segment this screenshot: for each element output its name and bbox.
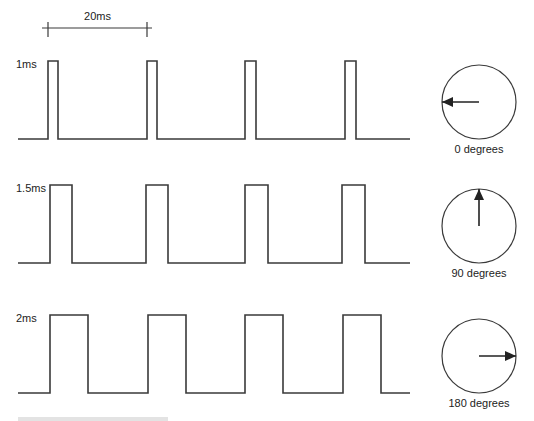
- diagram-svg: 20ms 1ms 0 degrees 1.5ms 90 degrees: [0, 0, 534, 421]
- servo-dial-0-degrees: [442, 65, 516, 139]
- figure-caption-cutoff: [18, 417, 168, 421]
- angle-label: 0 degrees: [455, 143, 504, 155]
- pwm-row-1ms: 1ms 0 degrees: [16, 58, 516, 155]
- period-label: 20ms: [84, 10, 111, 22]
- pwm-waveform: [18, 315, 410, 393]
- pwm-waveform: [18, 61, 410, 139]
- pwm-row-1-5ms: 1.5ms 90 degrees: [16, 182, 516, 279]
- pulse-width-label: 2ms: [16, 312, 37, 324]
- caption-remnant: [18, 417, 168, 421]
- servo-dial-90-degrees: [442, 189, 516, 263]
- pulse-width-label: 1.5ms: [16, 182, 46, 194]
- pwm-row-2ms: 2ms 180 degrees: [16, 312, 516, 409]
- servo-dial-180-degrees: [442, 319, 516, 393]
- angle-label: 180 degrees: [448, 397, 510, 409]
- pwm-waveform: [18, 185, 410, 263]
- pulse-width-label: 1ms: [16, 58, 37, 70]
- servo-pwm-diagram: 20ms 1ms 0 degrees 1.5ms 90 degrees: [0, 0, 534, 421]
- angle-label: 90 degrees: [451, 267, 507, 279]
- period-marker: 20ms: [42, 10, 152, 37]
